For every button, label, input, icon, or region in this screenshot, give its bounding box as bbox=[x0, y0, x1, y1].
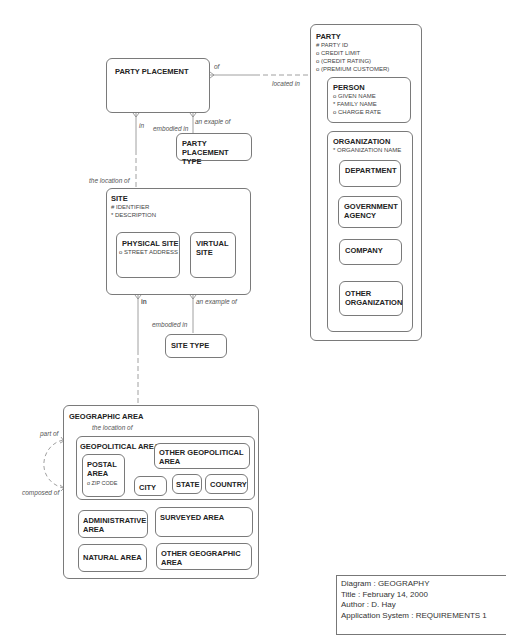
attribute-list: o GIVEN NAME * FAMILY NAME o CHARGE RATE bbox=[333, 92, 381, 116]
entity-title: GOVERNMENT AGENCY bbox=[344, 202, 398, 220]
entity-title: OTHER ORGANIZATION bbox=[345, 289, 402, 307]
rel-label-composed-of: composed of bbox=[22, 489, 59, 496]
attribute-list: o ZIP CODE bbox=[87, 479, 117, 487]
legend-title: Title : February 14, 2000 bbox=[341, 590, 502, 601]
entity-other-geopolitical-area[interactable]: OTHER GEOPOLITICAL AREA bbox=[154, 443, 250, 469]
entity-organization[interactable]: ORGANIZATION * ORGANIZATION NAME DEPARTM… bbox=[327, 131, 413, 332]
attribute: o CREDIT LIMIT bbox=[316, 49, 389, 57]
rel-label-embodied-in: embodied in bbox=[152, 321, 187, 328]
attribute-list: o STREET ADDRESS bbox=[119, 248, 178, 256]
entity-title: SITE TYPE bbox=[171, 341, 209, 350]
entity-title: PARTY PLACEMENT bbox=[115, 67, 188, 76]
entity-title: SURVEYED AREA bbox=[160, 513, 224, 522]
entity-title: ORGANIZATION bbox=[333, 137, 390, 146]
entity-title: COMPANY bbox=[345, 246, 383, 255]
entity-state[interactable]: STATE bbox=[172, 474, 202, 494]
entity-title: SITE bbox=[111, 194, 128, 203]
diagram-legend: Diagram : GEOGRAPHY Title : February 14,… bbox=[336, 575, 506, 635]
entity-title: NATURAL AREA bbox=[83, 553, 142, 562]
rel-label-the-location-of: the location of bbox=[92, 424, 132, 431]
attribute: o ZIP CODE bbox=[87, 479, 117, 487]
entity-other-geographic-area[interactable]: OTHER GEOGRAPHIC AREA bbox=[156, 543, 252, 570]
entity-title: DEPARTMENT bbox=[345, 166, 397, 175]
rel-label-located-in: located in bbox=[272, 80, 300, 87]
attribute: o (CREDIT RATING) bbox=[316, 57, 389, 65]
entity-postal-area[interactable]: POSTAL AREA o ZIP CODE bbox=[82, 454, 125, 497]
entity-administrative-area[interactable]: ADMINISTRATIVE AREA bbox=[78, 510, 148, 538]
attribute-list: # IDENTIFIER * DESCRIPTION bbox=[111, 203, 156, 219]
rel-label-of: of bbox=[214, 63, 219, 70]
rel-label-embodied-in: embodied in bbox=[153, 125, 188, 132]
entity-department[interactable]: DEPARTMENT bbox=[339, 160, 401, 187]
entity-person[interactable]: PERSON o GIVEN NAME * FAMILY NAME o CHAR… bbox=[327, 77, 411, 123]
rel-label-in: in bbox=[141, 298, 147, 305]
entity-title: OTHER GEOGRAPHIC AREA bbox=[161, 549, 241, 567]
entity-title: COUNTRY bbox=[210, 480, 247, 489]
rel-label-part-of: part of bbox=[40, 430, 58, 437]
entity-government-agency[interactable]: GOVERNMENT AGENCY bbox=[338, 196, 402, 228]
attribute: * ORGANIZATION NAME bbox=[333, 146, 401, 154]
attribute: * FAMILY NAME bbox=[333, 100, 381, 108]
entity-party[interactable]: PARTY # PARTY ID o CREDIT LIMIT o (CREDI… bbox=[310, 24, 422, 341]
entity-title: VIRTUAL SITE bbox=[196, 239, 229, 257]
attribute: o STREET ADDRESS bbox=[119, 248, 178, 256]
entity-title: OTHER GEOPOLITICAL AREA bbox=[159, 448, 244, 466]
entity-title: GEOGRAPHIC AREA bbox=[69, 412, 143, 421]
entity-title: PARTY bbox=[316, 32, 341, 41]
rel-label-in: in bbox=[139, 122, 144, 129]
legend-author: Author : D. Hay bbox=[341, 600, 502, 611]
entity-country[interactable]: COUNTRY bbox=[205, 474, 248, 494]
attribute: # IDENTIFIER bbox=[111, 203, 156, 211]
attribute: o GIVEN NAME bbox=[333, 92, 381, 100]
entity-virtual-site[interactable]: VIRTUAL SITE bbox=[190, 232, 236, 278]
entity-title: PERSON bbox=[333, 83, 365, 92]
entity-party-placement[interactable]: PARTY PLACEMENT bbox=[106, 58, 210, 113]
attribute-list: * ORGANIZATION NAME bbox=[333, 146, 401, 154]
entity-title: ADMINISTRATIVE AREA bbox=[83, 516, 146, 534]
entity-city[interactable]: CITY bbox=[134, 476, 167, 496]
entity-site[interactable]: SITE # IDENTIFIER * DESCRIPTION PHYSICAL… bbox=[106, 188, 251, 295]
rel-label-the-location-of: the location of bbox=[89, 177, 129, 184]
entity-title: PHYSICAL SITE bbox=[122, 239, 179, 248]
entity-surveyed-area[interactable]: SURVEYED AREA bbox=[155, 507, 253, 537]
entity-title: GEOPOLITICAL AREA bbox=[80, 442, 159, 451]
entity-geopolitical-area[interactable]: GEOPOLITICAL AREA POSTAL AREA o ZIP CODE… bbox=[76, 436, 255, 500]
entity-geographic-area[interactable]: GEOGRAPHIC AREA GEOPOLITICAL AREA POSTAL… bbox=[63, 405, 259, 579]
entity-title: PARTY PLACEMENT TYPE bbox=[182, 139, 251, 166]
entity-other-organization[interactable]: OTHER ORGANIZATION bbox=[339, 281, 403, 316]
entity-natural-area[interactable]: NATURAL AREA bbox=[78, 544, 147, 572]
entity-site-type[interactable]: SITE TYPE bbox=[165, 334, 227, 358]
attribute: o (PREMIUM CUSTOMER) bbox=[316, 65, 389, 73]
entity-title: CITY bbox=[139, 483, 156, 492]
attribute: # PARTY ID bbox=[316, 41, 389, 49]
entity-title: POSTAL AREA bbox=[87, 460, 117, 478]
attribute: * DESCRIPTION bbox=[111, 211, 156, 219]
rel-label-an-exaple-of: an exaple of bbox=[195, 118, 230, 125]
attribute-list: # PARTY ID o CREDIT LIMIT o (CREDIT RATI… bbox=[316, 41, 389, 73]
attribute: o CHARGE RATE bbox=[333, 108, 381, 116]
entity-party-placement-type[interactable]: PARTY PLACEMENT TYPE bbox=[176, 133, 252, 161]
entity-physical-site[interactable]: PHYSICAL SITE o STREET ADDRESS bbox=[116, 232, 180, 278]
legend-application-system: Application System : REQUIREMENTS 1 bbox=[341, 611, 502, 622]
rel-label-an-example-of: an example of bbox=[196, 298, 237, 305]
entity-company[interactable]: COMPANY bbox=[339, 239, 402, 265]
entity-title: STATE bbox=[176, 480, 199, 489]
legend-diagram: Diagram : GEOGRAPHY bbox=[341, 579, 502, 590]
